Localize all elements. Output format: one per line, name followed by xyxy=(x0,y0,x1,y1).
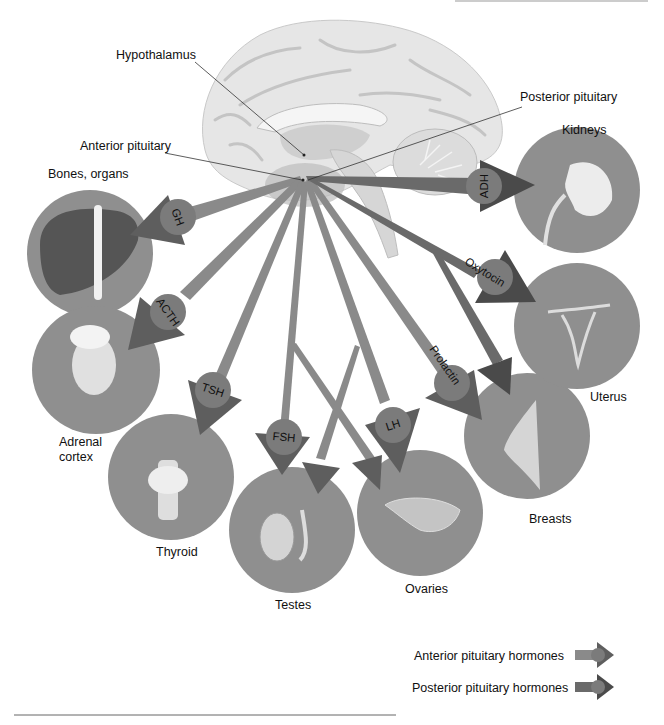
uterus-circle xyxy=(514,263,640,389)
label-anterior-pituitary: Anterior pituitary xyxy=(80,139,172,153)
bone-icon xyxy=(94,205,102,300)
label-posterior-pituitary: Posterior pituitary xyxy=(520,90,618,104)
testis-icon xyxy=(260,513,294,561)
legend-anterior-arrow-icon xyxy=(575,642,614,668)
label-hypothalamus: Hypothalamus xyxy=(116,48,196,62)
label-thyroid: Thyroid xyxy=(156,545,198,559)
brain-illustration xyxy=(202,20,502,258)
legend-anterior-label: Anterior pituitary hormones xyxy=(414,649,564,663)
label-kidneys: Kidneys xyxy=(562,123,606,137)
legend-posterior-arrow-icon xyxy=(575,674,614,700)
label-bones-organs: Bones, organs xyxy=(48,167,129,181)
label-adrenal-line2: cortex xyxy=(59,450,94,464)
hypothalamus-dot xyxy=(303,154,306,157)
label-breasts: Breasts xyxy=(529,512,571,526)
label-ovaries: Ovaries xyxy=(405,582,448,596)
label-testes: Testes xyxy=(275,598,311,612)
hormone-label-fsh: FSH xyxy=(272,430,296,444)
label-uterus: Uterus xyxy=(590,390,627,404)
anterior-pituitary-dot xyxy=(302,179,305,182)
hormone-label-adh: ADH xyxy=(478,174,490,198)
label-adrenal-line1: Adrenal xyxy=(59,435,102,449)
pituitary-hormone-diagram: GH ACTH TSH FSH LH Prolactin Oxytocin AD… xyxy=(0,0,664,725)
legend: Anterior pituitary hormones Posterior pi… xyxy=(412,642,614,700)
legend-posterior-label: Posterior pituitary hormones xyxy=(412,681,568,695)
